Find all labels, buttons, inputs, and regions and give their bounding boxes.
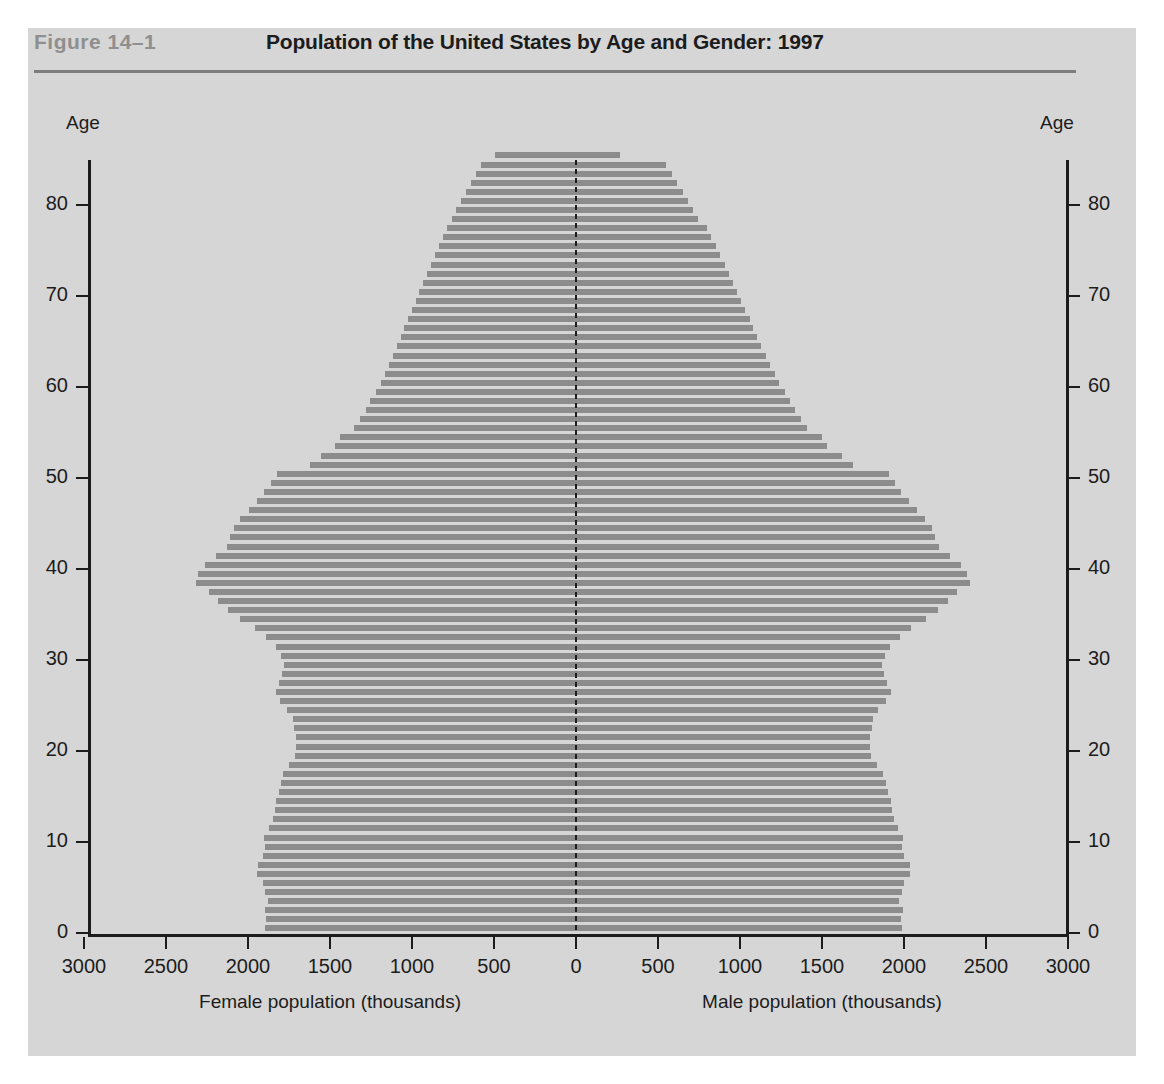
bar-male-age-85	[576, 152, 620, 158]
bar-female-age-22	[294, 725, 576, 731]
bar-male-age-34	[576, 616, 926, 622]
bar-female-age-72	[427, 271, 576, 277]
bar-male-age-42	[576, 544, 939, 550]
bar-female-age-40	[205, 562, 576, 568]
bar-male-age-1	[576, 916, 901, 922]
bar-male-age-62	[576, 362, 770, 368]
bar-male-age-81	[576, 189, 683, 195]
bar-female-age-69	[416, 298, 576, 304]
bar-male-age-57	[576, 407, 795, 413]
bar-male-age-83	[576, 171, 672, 177]
bar-male-age-32	[576, 634, 900, 640]
bar-female-age-10	[264, 835, 576, 841]
bar-male-age-45	[576, 516, 925, 522]
bar-male-age-12	[576, 816, 894, 822]
bar-female-age-82	[471, 180, 576, 186]
bar-female-age-0	[265, 925, 576, 931]
bar-male-age-15	[576, 789, 888, 795]
bar-female-age-35	[228, 607, 576, 613]
bar-male-age-75	[576, 243, 716, 249]
bar-female-age-78	[452, 216, 576, 222]
bar-female-age-13	[275, 807, 576, 813]
bar-male-age-47	[576, 498, 909, 504]
bar-female-age-70	[419, 289, 576, 295]
bar-female-age-61	[385, 371, 576, 377]
bar-female-age-39	[198, 571, 576, 577]
center-axis-dashed-line	[575, 160, 577, 934]
bar-male-age-3	[576, 898, 899, 904]
bar-female-age-50	[277, 471, 576, 477]
bar-male-age-53	[576, 443, 827, 449]
bar-female-age-11	[269, 825, 576, 831]
bar-female-age-54	[340, 434, 576, 440]
bar-male-age-44	[576, 525, 932, 531]
bar-male-age-77	[576, 225, 707, 231]
bar-female-age-77	[447, 225, 576, 231]
bar-male-age-23	[576, 716, 873, 722]
bar-male-age-68	[576, 307, 745, 313]
bar-female-age-56	[360, 416, 576, 422]
bar-female-age-20	[296, 744, 576, 750]
bar-female-age-55	[354, 425, 576, 431]
bar-male-age-54	[576, 434, 822, 440]
bar-female-age-21	[296, 734, 576, 740]
bar-male-age-31	[576, 644, 890, 650]
bar-female-age-27	[279, 680, 576, 686]
bar-male-age-28	[576, 671, 884, 677]
bar-male-age-59	[576, 389, 785, 395]
bar-male-age-48	[576, 489, 901, 495]
bar-female-age-29	[284, 662, 576, 668]
bar-female-age-12	[273, 816, 576, 822]
bar-male-age-0	[576, 925, 902, 931]
bar-female-age-53	[335, 443, 576, 449]
bar-female-age-57	[366, 407, 576, 413]
bar-male-age-24	[576, 707, 878, 713]
bar-female-age-81	[466, 189, 576, 195]
bar-female-age-18	[289, 762, 576, 768]
bar-male-age-35	[576, 607, 938, 613]
bar-male-age-58	[576, 398, 790, 404]
bar-male-age-67	[576, 316, 750, 322]
bar-male-age-79	[576, 207, 693, 213]
bar-female-age-24	[287, 707, 576, 713]
bar-male-age-56	[576, 416, 801, 422]
bar-female-age-64	[397, 343, 576, 349]
bar-male-age-43	[576, 534, 935, 540]
bar-female-age-51	[310, 462, 576, 468]
bar-female-age-74	[435, 252, 576, 258]
bar-male-age-72	[576, 271, 729, 277]
bar-female-age-38	[196, 580, 576, 586]
bar-female-age-37	[209, 589, 576, 595]
bar-male-age-80	[576, 198, 688, 204]
bar-female-age-63	[393, 353, 576, 359]
bar-female-age-48	[264, 489, 576, 495]
bar-male-age-4	[576, 889, 902, 895]
population-pyramid-bars	[0, 0, 1164, 1084]
bar-male-age-16	[576, 780, 886, 786]
bar-male-age-78	[576, 216, 698, 222]
bar-female-age-84	[481, 162, 576, 168]
bar-female-age-85	[495, 152, 576, 158]
bar-female-age-28	[282, 671, 576, 677]
bar-male-age-84	[576, 162, 666, 168]
bar-female-age-42	[227, 544, 576, 550]
bar-male-age-30	[576, 653, 885, 659]
bar-male-age-52	[576, 453, 842, 459]
bar-female-age-14	[276, 798, 576, 804]
bar-male-age-51	[576, 462, 853, 468]
bar-female-age-58	[370, 398, 576, 404]
bar-male-age-40	[576, 562, 961, 568]
bar-female-age-47	[257, 498, 576, 504]
bar-female-age-60	[381, 380, 576, 386]
bar-female-age-36	[218, 598, 576, 604]
bar-male-age-41	[576, 553, 950, 559]
bar-female-age-59	[376, 389, 576, 395]
bar-female-age-66	[404, 325, 576, 331]
bar-female-age-46	[249, 507, 576, 513]
bar-female-age-76	[443, 234, 576, 240]
bar-male-age-71	[576, 280, 733, 286]
bar-male-age-55	[576, 425, 807, 431]
bar-female-age-2	[265, 907, 576, 913]
bar-male-age-6	[576, 871, 910, 877]
bar-male-age-61	[576, 371, 775, 377]
